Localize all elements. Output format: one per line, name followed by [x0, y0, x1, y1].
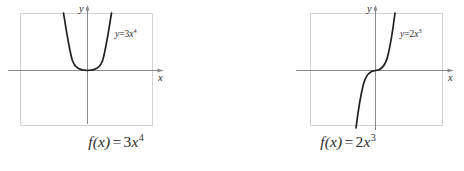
y-axis-label: y	[78, 3, 84, 14]
caption-exp-quartic: 4	[139, 132, 144, 143]
plot-svg-cubic: y x y=2x3	[232, 0, 464, 134]
caption-quartic: f(x)=3x4	[0, 132, 232, 152]
plot-area-cubic: y x y=2x3	[232, 0, 464, 134]
caption-var-cubic: x	[363, 133, 370, 150]
inline-equation-quartic: y=3x4	[114, 27, 137, 39]
plot-bounding-box	[311, 14, 443, 126]
figure-root: y x y=3x4 f(x)=3x4	[0, 0, 464, 171]
caption-exp-cubic: 3	[371, 132, 376, 143]
y-axis	[85, 5, 89, 124]
x-axis-label: x	[447, 72, 453, 83]
panel-quartic: y x y=3x4 f(x)=3x4	[0, 0, 232, 171]
caption-equals-quartic: =	[110, 133, 123, 150]
inline-equation-cubic: y=2x3	[399, 27, 422, 39]
y-axis	[373, 5, 377, 130]
x-axis-label: x	[157, 72, 163, 83]
svg-text:y=3x4: y=3x4	[114, 27, 137, 39]
panel-cubic: y x y=2x3 f(x)=2x3	[232, 0, 464, 171]
caption-cubic: f(x)=2x3	[232, 132, 464, 152]
svg-text:y=2x3: y=2x3	[399, 27, 422, 39]
inline-exp-quartic: 4	[134, 27, 137, 34]
plot-svg-quartic: y x y=3x4	[0, 0, 232, 134]
plot-area-quartic: y x y=3x4	[0, 0, 232, 134]
caption-var-quartic: x	[131, 133, 138, 150]
caption-equals-cubic: =	[342, 133, 355, 150]
y-axis-label: y	[366, 3, 372, 14]
inline-exp-cubic: 3	[419, 27, 422, 34]
